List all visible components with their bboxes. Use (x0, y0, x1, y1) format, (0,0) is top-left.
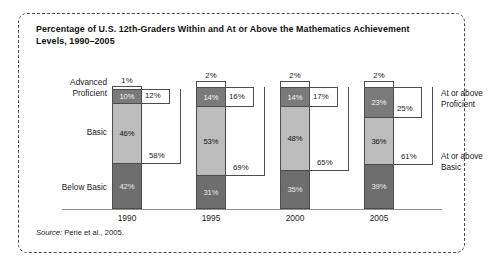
category-label-proficient: Proficient (19, 88, 107, 99)
year-label-2005: 2005 (364, 213, 394, 223)
side-note-basic-line2: Basic (441, 163, 461, 174)
bracket-proficient-top-1990 (142, 89, 170, 90)
at-or-above-basic-value-2005: 61% (401, 152, 417, 161)
plot-area: Advanced Proficient Basic Below Basic 1%… (19, 14, 466, 254)
segment-below-basic-2005[interactable]: 39% (364, 164, 394, 209)
segment-proficient-1990[interactable]: 10% (112, 89, 142, 103)
segment-proficient-label-2005: 23% (371, 98, 386, 107)
bracket-proficient-bottom-2005 (394, 117, 422, 118)
category-label-below-basic: Below Basic (19, 182, 107, 193)
segment-below-basic-2000[interactable]: 35% (280, 170, 310, 209)
bracket-proficient-top-2000 (310, 87, 338, 88)
bracket-proficient-right-1995 (253, 87, 254, 106)
source-label: Source: (36, 228, 62, 237)
year-label-2000: 2000 (280, 213, 310, 223)
segment-basic-label-2000: 48% (287, 134, 302, 143)
segment-below-basic-label-2005: 39% (371, 182, 386, 191)
side-note-proficient-line1: At or above (441, 89, 483, 100)
segment-below-basic-1990[interactable]: 42% (112, 163, 142, 209)
at-or-above-proficient-value-2000: 17% (313, 92, 329, 101)
segment-proficient-2005[interactable]: 23% (364, 87, 394, 117)
segment-basic-2005[interactable]: 36% (364, 117, 394, 164)
bracket-proficient-top-2005 (394, 87, 422, 88)
segment-basic-1995[interactable]: 53% (196, 106, 226, 175)
segment-basic-2000[interactable]: 48% (280, 106, 310, 170)
bracket-basic-right-1990 (180, 89, 181, 163)
advanced-value-1995: 2% (196, 71, 226, 80)
at-or-above-proficient-value-1990: 12% (145, 91, 161, 100)
category-label-advanced: Advanced (19, 77, 107, 88)
segment-proficient-2000[interactable]: 14% (280, 87, 310, 106)
category-label-basic: Basic (19, 127, 107, 138)
advanced-value-2000: 2% (280, 71, 310, 80)
year-label-1990: 1990 (112, 213, 142, 223)
source-text: Perie et al., 2005. (62, 228, 124, 237)
bracket-proficient-bottom-2000 (310, 106, 338, 107)
bracket-basic-bottom-1995 (226, 175, 265, 176)
bracket-proficient-bottom-1990 (142, 103, 170, 104)
bracket-basic-bottom-1990 (142, 163, 181, 164)
bracket-proficient-right-2005 (421, 87, 422, 117)
bar-group-1995: 2% 14% 53% 31% 1995 (196, 14, 226, 228)
at-or-above-proficient-value-1995: 16% (229, 92, 245, 101)
bar-group-1990: 1% 10% 46% 42% 1990 (112, 14, 142, 228)
bracket-proficient-top-1995 (226, 87, 254, 88)
advanced-value-2005: 2% (364, 71, 394, 80)
bracket-proficient-right-2000 (337, 87, 338, 106)
segment-basic-label-1990: 46% (119, 129, 134, 138)
at-or-above-proficient-value-2005: 25% (397, 104, 413, 113)
segment-below-basic-label-1990: 42% (119, 182, 134, 191)
segment-basic-label-2005: 36% (371, 137, 386, 146)
bracket-basic-bottom-2000 (310, 170, 349, 171)
advanced-value-1990: 1% (112, 76, 142, 85)
bracket-proficient-right-1990 (169, 89, 170, 103)
bracket-basic-bottom-2005 (394, 164, 433, 165)
segment-proficient-label-1990: 10% (119, 92, 134, 101)
at-or-above-basic-value-1990: 58% (149, 151, 165, 160)
bar-group-2000: 2% 14% 48% 35% 2000 (280, 14, 310, 228)
segment-below-basic-1995[interactable]: 31% (196, 175, 226, 209)
segment-proficient-label-1995: 14% (203, 93, 218, 102)
source-note: Source: Perie et al., 2005. (36, 228, 124, 237)
segment-basic-label-1995: 53% (203, 137, 218, 146)
figure-panel: Percentage of U.S. 12th-Graders Within a… (18, 13, 465, 253)
bracket-basic-right-2000 (348, 87, 349, 170)
segment-below-basic-label-2000: 35% (287, 185, 302, 194)
bracket-proficient-bottom-1995 (226, 106, 254, 107)
segment-basic-1990[interactable]: 46% (112, 103, 142, 163)
bar-group-2005: 2% 23% 36% 39% 2005 (364, 14, 394, 228)
segment-proficient-1995[interactable]: 14% (196, 87, 226, 106)
at-or-above-basic-value-2000: 65% (317, 158, 333, 167)
at-or-above-basic-value-1995: 69% (233, 163, 249, 172)
segment-proficient-label-2000: 14% (287, 93, 302, 102)
side-note-proficient-line2: Proficient (441, 100, 475, 111)
segment-below-basic-label-1995: 31% (203, 188, 218, 197)
bracket-basic-right-1995 (264, 87, 265, 175)
year-label-1995: 1995 (196, 213, 226, 223)
side-note-basic-line1: At or above (441, 152, 483, 163)
bracket-basic-right-2005 (432, 87, 433, 164)
